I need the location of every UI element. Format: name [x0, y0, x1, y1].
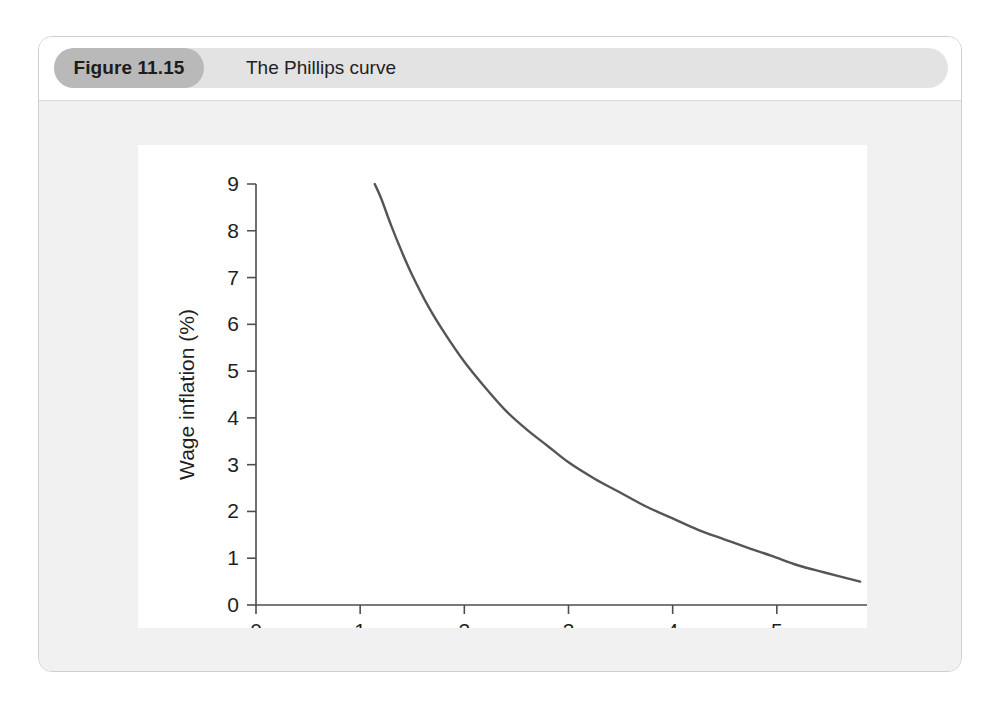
y-tick-label: 8 — [227, 219, 239, 242]
x-tick-label: 5 — [771, 619, 783, 628]
phillips-curve-chart: 0123456 0123456789 Unemployment (%) Wage… — [138, 145, 867, 628]
y-tick-label: 9 — [227, 172, 239, 195]
y-tick-label: 6 — [227, 312, 239, 335]
plot-panel: 0123456 0123456789 Unemployment (%) Wage… — [138, 145, 867, 628]
y-tick-label: 0 — [227, 593, 239, 616]
y-tick-label: 3 — [227, 453, 239, 476]
figure-number-label: Figure 11.15 — [73, 57, 184, 79]
phillips-curve-line — [375, 184, 860, 582]
y-tick-label: 4 — [227, 406, 239, 429]
curve-group — [375, 184, 860, 582]
x-tick-label: 2 — [458, 619, 470, 628]
figure-number-badge: Figure 11.15 — [54, 48, 204, 88]
y-tick-label: 1 — [227, 546, 239, 569]
x-tick-label: 1 — [354, 619, 366, 628]
figure-card: Figure 11.15 The Phillips curve 0123456 … — [38, 36, 962, 672]
x-axis-ticks: 0123456 — [250, 605, 867, 628]
chart-axes — [256, 184, 867, 605]
figure-title: The Phillips curve — [246, 48, 396, 88]
y-tick-label: 5 — [227, 359, 239, 382]
figure-body: 0123456 0123456789 Unemployment (%) Wage… — [39, 101, 961, 672]
x-tick-label: 3 — [563, 619, 575, 628]
x-tick-label: 4 — [667, 619, 679, 628]
x-tick-label: 0 — [250, 619, 262, 628]
figure-page: Figure 11.15 The Phillips curve 0123456 … — [0, 0, 1002, 713]
figure-header: Figure 11.15 The Phillips curve — [39, 37, 961, 101]
y-axis-title: Wage inflation (%) — [175, 309, 198, 480]
y-tick-label: 7 — [227, 266, 239, 289]
y-tick-label: 2 — [227, 499, 239, 522]
y-axis-ticks: 0123456789 — [227, 172, 256, 616]
